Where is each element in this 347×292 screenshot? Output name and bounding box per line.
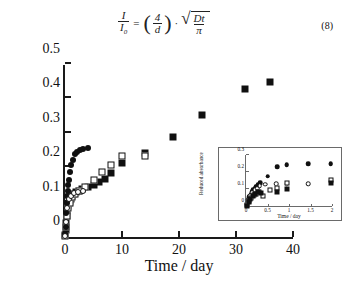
main-x-tick-label: 40 (286, 237, 300, 258)
equation-block: I I0 = ( 4 d ) · √ Dt π (8) (0, 6, 347, 46)
equation-radicand-numerator: Dt (192, 13, 207, 24)
equation-radicand-fraction: Dt π (192, 13, 207, 36)
main-axes: Time / day Reduced absorbance Time / day… (63, 65, 293, 239)
inset-data-point-filled-square (274, 189, 279, 194)
main-data-point-filled-square (119, 160, 126, 167)
main-x-tick-mark (292, 231, 294, 237)
main-data-point-filled-square (198, 111, 205, 118)
equation-square-root: √ Dt π (181, 10, 209, 36)
equation-lhs-fraction: I I0 (118, 10, 129, 36)
inset-x-tick-mark (289, 204, 290, 207)
inset-x-tick-label: 0.5 (264, 206, 270, 213)
main-y-tick-label: 0.4 (43, 75, 66, 91)
main-data-point-filled-circle (85, 145, 91, 151)
equation-factor-denominator: d (153, 23, 163, 35)
inset-data-point-open-circle (257, 183, 262, 188)
inset-x-tick-mark (268, 204, 269, 207)
inset-x-tick-label: 2 (331, 206, 334, 213)
inset-y-tick-mark (246, 154, 249, 155)
equation-paren-open: ( (143, 13, 150, 33)
inset-axes: Time / day 00.10.20.300.511.52 (245, 155, 332, 207)
main-data-point-filled-circle (65, 182, 71, 188)
radical-sign-icon: √ (181, 10, 190, 36)
main-x-tick-label: 10 (115, 237, 129, 258)
inset-x-tick-label: 1 (288, 206, 291, 213)
equation-lhs-denominator: I0 (118, 21, 129, 36)
main-data-point-filled-circle (66, 177, 72, 183)
inset-data-point-filled-circle (306, 162, 311, 167)
equation-multiplication-dot: · (175, 17, 179, 29)
equation-formula: I I0 = ( 4 d ) · √ Dt π (118, 10, 210, 36)
inset-x-tick-mark (311, 204, 312, 207)
main-x-tick-label: 0 (62, 237, 69, 258)
equation-radicand: Dt π (191, 11, 210, 36)
figure-plot-area: Reduced absorbance Time / day Reduced ab… (0, 52, 347, 292)
equation-number: (8) (321, 20, 333, 31)
equation-paren-close: ) (164, 13, 171, 33)
inset-y-tick-label: 0.1 (238, 180, 246, 186)
inset-y-tick-mark (246, 188, 249, 189)
main-data-point-filled-square (170, 134, 177, 141)
equation-factor-numerator: 4 (153, 12, 163, 23)
main-y-tick-mark (65, 96, 71, 98)
inset-data-point-open-circle (263, 182, 268, 187)
main-data-point-open-square (107, 161, 114, 168)
inset-y-tick-label: 0.2 (238, 163, 246, 169)
equation-equals: = (133, 17, 139, 29)
inset-data-point-filled-circle (285, 162, 290, 167)
inset-data-point-filled-circle (328, 161, 333, 166)
main-y-tick-mark (65, 62, 71, 64)
inset-data-point-open-square (284, 181, 289, 186)
main-data-point-open-circle (63, 219, 69, 225)
main-y-tick-label: 0.5 (43, 41, 66, 57)
inset-y-tick-mark (246, 171, 249, 172)
equation-lhs-numerator: I (120, 10, 128, 21)
main-x-tick-label: 20 (172, 237, 186, 258)
main-data-point-filled-square (241, 86, 248, 93)
inset-data-point-open-circle (306, 181, 311, 186)
inset-data-point-filled-circle (275, 164, 280, 169)
inset-data-point-filled-circle (265, 174, 270, 179)
main-data-point-open-circle (80, 188, 86, 194)
main-data-point-filled-circle (70, 157, 76, 163)
inset-x-tick-mark (332, 204, 333, 207)
main-x-tick-label: 30 (229, 237, 243, 258)
inset-data-point-filled-square (328, 180, 333, 185)
main-y-tick-label: 0.1 (43, 179, 66, 195)
equation-lhs-denominator-subscript: 0 (124, 28, 128, 36)
inset-data-point-filled-square (259, 191, 264, 196)
main-data-point-open-square (90, 177, 97, 184)
main-x-tick-mark (235, 231, 237, 237)
main-data-point-filled-square (107, 170, 114, 177)
main-data-point-filled-circle (63, 210, 69, 216)
main-data-point-filled-circle (68, 162, 74, 168)
main-x-tick-mark (178, 231, 180, 237)
main-y-tick-label: 0.3 (43, 110, 66, 126)
main-y-tick-label: 0.2 (43, 144, 66, 160)
main-data-point-open-circle (62, 233, 68, 239)
main-data-point-filled-circle (67, 169, 73, 175)
main-data-point-open-circle (64, 205, 70, 211)
main-data-point-open-square (99, 168, 106, 175)
inset-x-tick-label: 1.5 (307, 206, 313, 213)
main-data-point-open-square (141, 153, 148, 160)
main-data-point-filled-circle (63, 224, 69, 230)
equation-factor-fraction: 4 d (153, 12, 163, 35)
main-data-point-open-square (119, 153, 126, 160)
main-y-tick-mark (65, 131, 71, 133)
inset-chart: Reduced absorbance Time / day 00.10.20.3… (218, 147, 342, 221)
equation-radicand-denominator: π (194, 24, 204, 36)
inset-data-point-filled-square (284, 187, 289, 192)
main-x-axis-label: Time / day (65, 257, 293, 275)
inset-y-axis-label-text: Reduced absorbance (198, 148, 204, 199)
inset-y-tick-label: 0.3 (238, 146, 246, 152)
main-x-tick-mark (121, 231, 123, 237)
main-data-point-filled-square (267, 79, 274, 86)
inset-data-point-open-square (267, 187, 272, 192)
inset-x-axis-label: Time / day (246, 213, 332, 219)
